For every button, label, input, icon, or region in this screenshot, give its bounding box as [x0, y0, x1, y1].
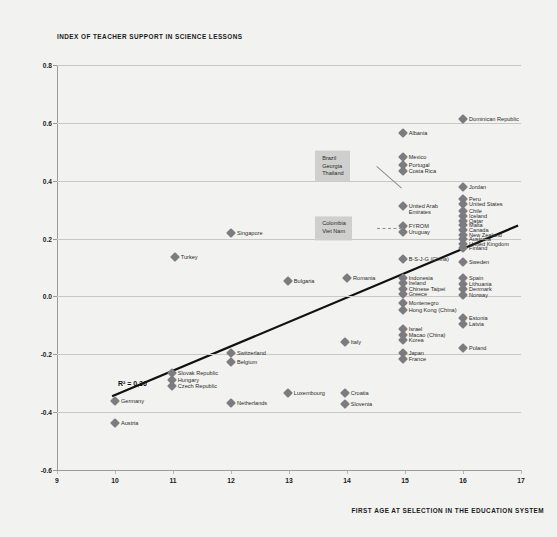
x-axis-line: [57, 470, 521, 471]
data-point-label: Luxembourg: [294, 390, 325, 396]
data-point-label: Albania: [409, 130, 428, 136]
data-point[interactable]: [398, 305, 408, 315]
y-tick-label: -0.6: [26, 467, 52, 474]
data-point-label: Japan: [409, 350, 424, 356]
data-point[interactable]: [398, 254, 408, 264]
x-tick-label: 14: [343, 477, 351, 484]
data-point[interactable]: [458, 182, 468, 192]
data-point[interactable]: [398, 167, 408, 177]
data-point-label: Austria: [121, 420, 138, 426]
data-point-label: Latvia: [469, 321, 484, 327]
y-tick-mark: [53, 239, 57, 240]
x-tick-label: 11: [169, 477, 176, 484]
data-point-label: Greece: [409, 291, 427, 297]
data-point-label: Uruguay: [409, 229, 430, 235]
callout-leader-line: [377, 228, 402, 230]
data-point-label: Poland: [469, 345, 486, 351]
x-axis-title: FIRST AGE AT SELECTION IN THE EDUCATION …: [351, 507, 544, 514]
trendline: [57, 65, 521, 470]
gridline-y: [57, 65, 521, 66]
x-tick-label: 12: [227, 477, 235, 484]
data-point-label: Mexico: [409, 154, 427, 160]
y-tick-label: 0.4: [26, 177, 52, 184]
data-point[interactable]: [340, 388, 350, 398]
x-tick-label: 17: [517, 477, 525, 484]
data-point-label: Korea: [409, 337, 424, 343]
data-point-label: Italy: [351, 339, 361, 345]
gridline-y: [57, 296, 521, 297]
data-point[interactable]: [342, 273, 352, 283]
gridline-y: [57, 181, 521, 182]
data-point[interactable]: [110, 418, 120, 428]
y-tick-mark: [53, 123, 57, 124]
data-point-label: Croatia: [351, 390, 369, 396]
data-point-label: Dominican Republic: [469, 115, 519, 121]
x-tick-label: 13: [285, 477, 293, 484]
y-tick-mark: [53, 296, 57, 297]
data-point[interactable]: [283, 276, 293, 286]
callout-label: Colombia: [322, 221, 346, 229]
data-point-label: B-S-J-G (China): [409, 256, 449, 262]
y-tick-label: 0.0: [26, 293, 52, 300]
y-tick-label: 0.6: [26, 119, 52, 126]
callout-label: Georgia: [322, 162, 343, 170]
x-tick-label: 9: [55, 477, 59, 484]
data-point-label: United Arab: [409, 203, 438, 209]
data-point[interactable]: [283, 388, 293, 398]
data-point-label: Switzerland: [237, 350, 266, 356]
plot-area: 0.80.60.40.20.0-0.2-0.4-0.69101112131415…: [57, 65, 521, 470]
data-point[interactable]: [226, 398, 236, 408]
data-point[interactable]: [398, 128, 408, 138]
callout-box: BrazilGeorgiaThailand: [315, 151, 349, 182]
x-tick-mark: [521, 470, 522, 474]
x-tick-label: 15: [401, 477, 409, 484]
callout-box: ColombiaViet Nam: [315, 217, 352, 240]
r-squared-annotation: R² = 0,36: [118, 380, 147, 387]
data-point-label: Slovak Republic: [178, 370, 218, 376]
data-point-label: Sweden: [469, 259, 489, 265]
data-point-label: Singapore: [237, 230, 263, 236]
x-tick-label: 16: [459, 477, 467, 484]
callout-label: Brazil: [322, 155, 343, 163]
y-tick-label: 0.2: [26, 235, 52, 242]
data-point-label: Turkey: [181, 254, 198, 260]
gridline-y: [57, 123, 521, 124]
data-point-label: Hong Kong (China): [409, 307, 457, 313]
y-axis-line: [57, 65, 58, 470]
data-point[interactable]: [340, 399, 350, 409]
data-point[interactable]: [458, 257, 468, 267]
data-point-label: Jordan: [469, 184, 486, 190]
data-point[interactable]: [398, 201, 408, 211]
y-tick-mark: [53, 65, 57, 66]
data-point[interactable]: [226, 228, 236, 238]
data-point-label: Romania: [353, 275, 375, 281]
data-point[interactable]: [340, 337, 350, 347]
data-point[interactable]: [398, 335, 408, 345]
data-point-label: Germany: [121, 398, 144, 404]
x-tick-label: 10: [111, 477, 119, 484]
y-tick-mark: [53, 412, 57, 413]
data-point-label: Netherlands: [237, 400, 267, 406]
data-point-label: United States: [469, 201, 503, 207]
data-point[interactable]: [398, 355, 408, 365]
gridline-y: [57, 412, 521, 413]
data-point-label: Portugal: [409, 162, 430, 168]
data-point[interactable]: [226, 357, 236, 367]
data-point[interactable]: [458, 343, 468, 353]
chart-title: INDEX OF TEACHER SUPPORT IN SCIENCE LESS…: [57, 33, 243, 40]
data-point-label: France: [409, 356, 426, 362]
data-point-label: Montenegro: [409, 300, 439, 306]
data-point-label: Costa Rica: [409, 168, 436, 174]
data-point[interactable]: [170, 252, 180, 262]
gridline-y: [57, 354, 521, 355]
chart-canvas: INDEX OF TEACHER SUPPORT IN SCIENCE LESS…: [0, 0, 557, 537]
y-tick-label: -0.2: [26, 351, 52, 358]
callout-label: Thailand: [322, 170, 343, 178]
data-point[interactable]: [110, 396, 120, 406]
y-tick-label: -0.4: [26, 409, 52, 416]
callout-label: Viet Nam: [322, 228, 346, 236]
data-point-label: Norway: [469, 292, 488, 298]
data-point-label: Bulgaria: [294, 278, 315, 284]
data-point-label: Czech Republic: [178, 382, 217, 388]
y-tick-mark: [53, 354, 57, 355]
